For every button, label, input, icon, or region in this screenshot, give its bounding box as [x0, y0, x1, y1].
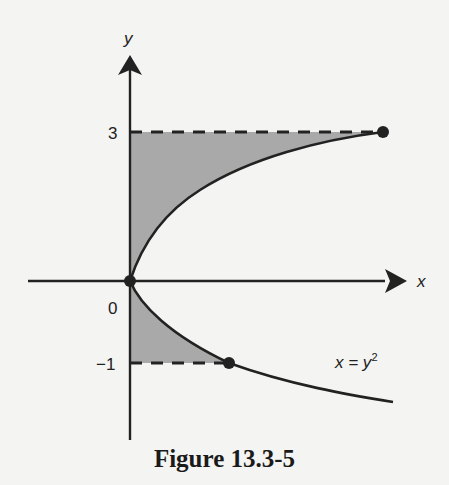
point-1-neg1 [223, 357, 235, 369]
tick-label-neg1: −1 [96, 355, 115, 374]
point-9-3 [377, 126, 389, 138]
figure-canvas: y x 3 0 −1 x = y2 [0, 0, 449, 485]
tick-label-0: 0 [108, 299, 117, 318]
x-axis-label: x [416, 272, 426, 291]
shaded-region-upper [130, 132, 383, 281]
y-axis-label: y [123, 29, 134, 48]
curve-equation-label: x = y2 [334, 351, 378, 372]
tick-label-3: 3 [108, 124, 117, 143]
curve-equation-exponent: 2 [371, 351, 377, 363]
figure-caption: Figure 13.3-5 [0, 445, 449, 473]
shaded-region-lower [130, 281, 229, 363]
x-axis-arrow-icon [385, 269, 407, 293]
curve-equation-base: x = y [334, 353, 373, 372]
point-origin [124, 275, 136, 287]
